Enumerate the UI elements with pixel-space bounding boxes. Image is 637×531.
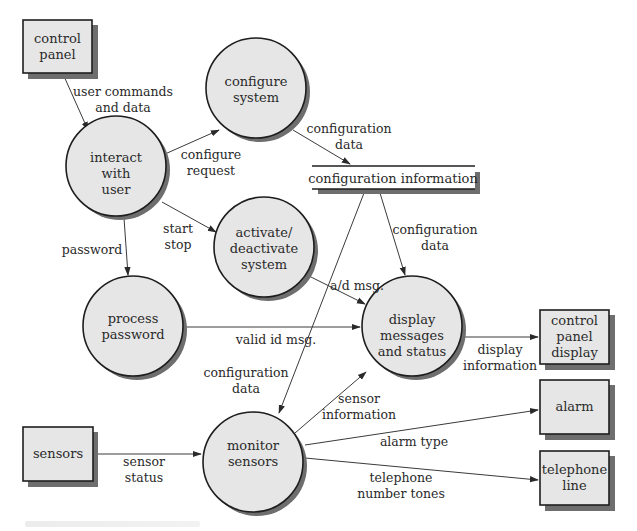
entity-label: sensors	[33, 446, 83, 461]
svg-text:configuresystem: configuresystem	[225, 74, 288, 105]
process-label: system	[233, 90, 279, 105]
process-label: deactivate	[230, 241, 299, 256]
process-label: system	[241, 257, 287, 272]
flow-label-sensor-status: sensorstatus	[123, 454, 165, 485]
process-label: activate/	[236, 225, 293, 240]
data-store-label: configuration information	[308, 171, 478, 186]
process-label: monitor	[227, 438, 280, 453]
flow-password	[124, 218, 128, 275]
process-label: configure	[225, 74, 288, 89]
entity-label: display	[551, 345, 598, 360]
entity-label: panel	[39, 47, 75, 62]
svg-text:processpassword: processpassword	[102, 311, 165, 342]
data-flow-diagram: controlpanel sensors controlpaneldisplay…	[0, 0, 637, 531]
flow-label-password: password	[62, 242, 123, 257]
process-label: sensors	[228, 454, 278, 469]
entity-telephone-line[interactable]: telephoneline	[540, 451, 615, 511]
svg-text:monitorsensors: monitorsensors	[227, 438, 280, 469]
figure-caption-faded	[25, 521, 200, 527]
flow-label-telephone-number-tones: telephonenumber tones	[357, 470, 445, 501]
process-label: interact	[90, 150, 143, 165]
entity-label: control	[551, 313, 598, 328]
process-monitor-sensors[interactable]: monitorsensors	[203, 412, 307, 516]
entity-sensors[interactable]: sensors	[23, 427, 98, 487]
flow-label-start-stop: startstop	[163, 221, 193, 252]
process-label: with	[102, 166, 132, 181]
process-label: password	[102, 327, 165, 342]
flow-label-user-commands: user commandsand data	[73, 84, 173, 115]
entity-label: panel	[556, 329, 592, 344]
flow-label-alarm-type: alarm type	[380, 434, 448, 449]
process-configure-system[interactable]: configuresystem	[206, 38, 310, 142]
entity-label: control	[34, 31, 81, 46]
process-label: user	[102, 182, 132, 197]
process-process-password[interactable]: processpassword	[83, 276, 187, 380]
flow-label-sensor-information: sensorinformation	[322, 391, 396, 422]
process-label: process	[108, 311, 159, 326]
entity-label: line	[562, 478, 587, 493]
svg-text:sensors: sensors	[33, 446, 83, 461]
flow-label-ad-msg: a/d msg.	[330, 278, 384, 293]
flow-label-configuration-data-1: configurationdata	[307, 121, 392, 152]
flow-label-valid-id-msg: valid id msg.	[235, 332, 317, 347]
process-interact-with-user[interactable]: interactwithuser	[66, 116, 170, 220]
entity-alarm[interactable]: alarm	[540, 380, 615, 440]
process-label: and status	[378, 344, 447, 359]
flow-label-configuration-data-3: configurationdata	[204, 365, 289, 396]
svg-text:alarm: alarm	[555, 399, 593, 414]
entity-control-panel-display[interactable]: controlpaneldisplay	[540, 310, 615, 370]
entity-label: alarm	[555, 399, 593, 414]
flow-label-configuration-data-2: configurationdata	[393, 222, 478, 253]
svg-text:controlpaneldisplay: controlpaneldisplay	[551, 313, 598, 360]
process-label: messages	[380, 328, 444, 343]
entity-control-panel[interactable]: controlpanel	[23, 20, 98, 79]
data-store-configuration-information[interactable]: configuration information	[308, 166, 480, 194]
entity-label: telephone	[542, 462, 608, 477]
process-activate-deactivate-system[interactable]: activate/deactivatesystem	[214, 197, 318, 301]
process-label: display	[389, 312, 436, 327]
flow-label-configure-request: configurerequest	[181, 147, 241, 178]
flow-user-commands	[63, 74, 88, 130]
svg-text:controlpanel: controlpanel	[34, 31, 81, 62]
flow-label-display-information: displayinformation	[463, 342, 537, 373]
